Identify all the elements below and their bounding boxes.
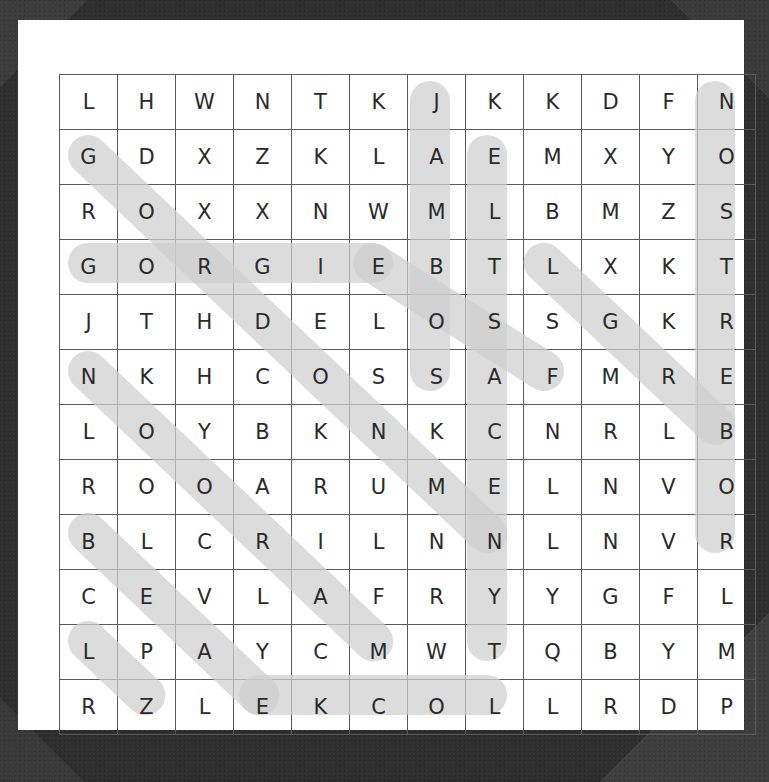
grid-cell[interactable]: X: [234, 185, 292, 240]
grid-cell[interactable]: X: [582, 130, 640, 185]
grid-cell[interactable]: L: [350, 295, 408, 350]
grid-cell[interactable]: R: [292, 460, 350, 515]
grid-cell[interactable]: M: [582, 185, 640, 240]
grid-cell[interactable]: B: [524, 185, 582, 240]
grid-cell[interactable]: M: [408, 185, 466, 240]
grid-cell[interactable]: R: [408, 570, 466, 625]
grid-cell[interactable]: Q: [524, 625, 582, 680]
grid-cell[interactable]: H: [118, 75, 176, 130]
grid-cell[interactable]: R: [582, 405, 640, 460]
grid-cell[interactable]: H: [176, 295, 234, 350]
grid-cell[interactable]: M: [350, 625, 408, 680]
grid-cell[interactable]: F: [640, 75, 698, 130]
grid-cell[interactable]: K: [292, 405, 350, 460]
grid-cell[interactable]: R: [640, 350, 698, 405]
grid-cell[interactable]: Z: [118, 680, 176, 735]
grid-cell[interactable]: T: [466, 625, 524, 680]
grid-cell[interactable]: Y: [466, 570, 524, 625]
grid-cell[interactable]: K: [640, 240, 698, 295]
grid-cell[interactable]: L: [524, 240, 582, 295]
grid-cell[interactable]: N: [466, 515, 524, 570]
grid-cell[interactable]: T: [466, 240, 524, 295]
grid-cell[interactable]: L: [524, 460, 582, 515]
grid-cell[interactable]: D: [582, 75, 640, 130]
grid-cell[interactable]: P: [698, 680, 756, 735]
grid-cell[interactable]: X: [176, 185, 234, 240]
grid-cell[interactable]: S: [466, 295, 524, 350]
grid-cell[interactable]: C: [234, 350, 292, 405]
grid-cell[interactable]: C: [292, 625, 350, 680]
grid-cell[interactable]: K: [524, 75, 582, 130]
grid-cell[interactable]: L: [350, 130, 408, 185]
grid-cell[interactable]: N: [698, 75, 756, 130]
grid-cell[interactable]: A: [234, 460, 292, 515]
grid-cell[interactable]: L: [234, 570, 292, 625]
grid-cell[interactable]: K: [408, 405, 466, 460]
grid-cell[interactable]: K: [466, 75, 524, 130]
grid-cell[interactable]: R: [234, 515, 292, 570]
grid-cell[interactable]: L: [524, 515, 582, 570]
grid-cell[interactable]: E: [292, 295, 350, 350]
grid-cell[interactable]: K: [118, 350, 176, 405]
grid-cell[interactable]: T: [292, 75, 350, 130]
grid-cell[interactable]: D: [640, 680, 698, 735]
grid-cell[interactable]: G: [582, 570, 640, 625]
grid-cell[interactable]: N: [292, 185, 350, 240]
grid-cell[interactable]: X: [176, 130, 234, 185]
grid-cell[interactable]: L: [466, 185, 524, 240]
grid-cell[interactable]: B: [60, 515, 118, 570]
grid-cell[interactable]: O: [292, 350, 350, 405]
grid-cell[interactable]: A: [176, 625, 234, 680]
grid-cell[interactable]: F: [640, 570, 698, 625]
grid-cell[interactable]: B: [698, 405, 756, 460]
grid-cell[interactable]: P: [118, 625, 176, 680]
grid-cell[interactable]: K: [292, 680, 350, 735]
grid-cell[interactable]: S: [524, 295, 582, 350]
grid-cell[interactable]: O: [408, 295, 466, 350]
grid-cell[interactable]: K: [350, 75, 408, 130]
grid-cell[interactable]: O: [118, 405, 176, 460]
grid-cell[interactable]: E: [466, 460, 524, 515]
grid-cell[interactable]: F: [350, 570, 408, 625]
grid-cell[interactable]: B: [234, 405, 292, 460]
grid-cell[interactable]: L: [176, 680, 234, 735]
grid-cell[interactable]: Y: [176, 405, 234, 460]
grid-cell[interactable]: E: [118, 570, 176, 625]
grid-cell[interactable]: Z: [234, 130, 292, 185]
grid-cell[interactable]: W: [408, 625, 466, 680]
grid-cell[interactable]: F: [524, 350, 582, 405]
grid-cell[interactable]: D: [118, 130, 176, 185]
grid-cell[interactable]: R: [60, 185, 118, 240]
grid-cell[interactable]: L: [698, 570, 756, 625]
grid-cell[interactable]: N: [408, 515, 466, 570]
grid-cell[interactable]: M: [582, 350, 640, 405]
grid-cell[interactable]: R: [582, 680, 640, 735]
grid-cell[interactable]: E: [234, 680, 292, 735]
grid-cell[interactable]: M: [408, 460, 466, 515]
grid-cell[interactable]: Y: [524, 570, 582, 625]
grid-cell[interactable]: L: [60, 625, 118, 680]
grid-cell[interactable]: V: [640, 460, 698, 515]
grid-cell[interactable]: S: [350, 350, 408, 405]
grid-cell[interactable]: R: [60, 460, 118, 515]
grid-cell[interactable]: Y: [640, 625, 698, 680]
grid-cell[interactable]: J: [408, 75, 466, 130]
word-search-grid-container[interactable]: LHWNTKJKKDFNGDXZKLAEMXYOROXXNWMLBMZSGORG…: [59, 74, 743, 722]
grid-cell[interactable]: B: [408, 240, 466, 295]
grid-cell[interactable]: E: [350, 240, 408, 295]
grid-cell[interactable]: O: [118, 240, 176, 295]
grid-cell[interactable]: N: [60, 350, 118, 405]
grid-cell[interactable]: G: [582, 295, 640, 350]
grid-cell[interactable]: R: [698, 295, 756, 350]
grid-cell[interactable]: M: [698, 625, 756, 680]
grid-cell[interactable]: L: [118, 515, 176, 570]
grid-cell[interactable]: A: [408, 130, 466, 185]
grid-cell[interactable]: J: [60, 295, 118, 350]
grid-cell[interactable]: N: [524, 405, 582, 460]
grid-cell[interactable]: E: [466, 130, 524, 185]
grid-cell[interactable]: W: [176, 75, 234, 130]
grid-cell[interactable]: W: [350, 185, 408, 240]
grid-cell[interactable]: N: [582, 460, 640, 515]
grid-cell[interactable]: K: [640, 295, 698, 350]
grid-cell[interactable]: O: [118, 185, 176, 240]
